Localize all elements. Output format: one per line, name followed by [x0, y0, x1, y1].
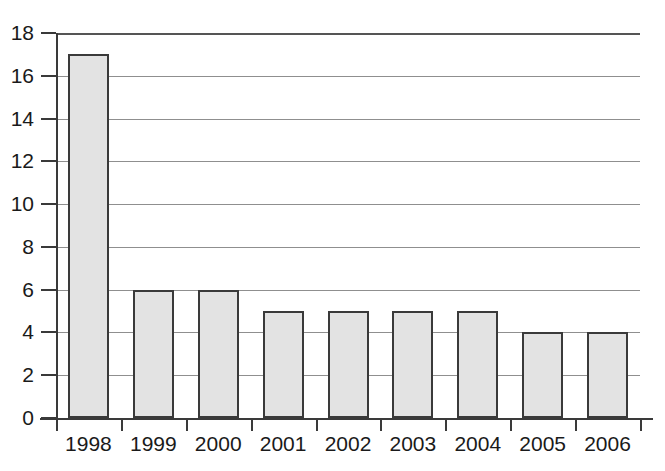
x-tick-1999 — [186, 420, 188, 431]
bar-2003 — [392, 311, 433, 418]
x-tick-2006 — [640, 420, 642, 431]
y-axis-label: 4 — [0, 321, 34, 342]
y-axis-label: 6 — [0, 279, 34, 300]
y-tick-2 — [41, 374, 56, 376]
y-axis-line — [56, 33, 58, 420]
bar-2000 — [198, 290, 239, 418]
bar-2006 — [587, 332, 628, 418]
y-tick-4 — [41, 331, 56, 333]
y-tick-6 — [41, 289, 56, 291]
x-tick-1998 — [121, 420, 123, 431]
x-tick-2001 — [316, 420, 318, 431]
x-axis-label-1998: 1998 — [56, 432, 121, 456]
bar-1998 — [68, 54, 109, 418]
y-axis-label: 2 — [0, 364, 34, 385]
y-axis-label: 0 — [0, 407, 34, 428]
x-axis-label-1999: 1999 — [121, 432, 186, 456]
gridline-8 — [56, 247, 640, 248]
bar-chart: 024681012141618 199819992000200120022003… — [0, 0, 665, 471]
x-tick-2000 — [251, 420, 253, 431]
x-tick-2005 — [575, 420, 577, 431]
y-axis-label: 18 — [0, 22, 34, 43]
gridline-16 — [56, 76, 640, 77]
bar-2002 — [328, 311, 369, 418]
y-tick-12 — [41, 160, 56, 162]
x-tick-2002 — [380, 420, 382, 431]
y-tick-8 — [41, 246, 56, 248]
y-axis-label: 8 — [0, 236, 34, 257]
x-axis-label-2000: 2000 — [186, 432, 251, 456]
y-tick-14 — [41, 118, 56, 120]
x-axis-label-2001: 2001 — [251, 432, 316, 456]
x-axis-label-2006: 2006 — [575, 432, 640, 456]
y-tick-18 — [41, 32, 56, 34]
x-tick-2004 — [510, 420, 512, 431]
y-axis-label: 10 — [0, 193, 34, 214]
gridline-12 — [56, 161, 640, 162]
bar-2005 — [522, 332, 563, 418]
bar-1999 — [133, 290, 174, 418]
x-axis-label-2003: 2003 — [380, 432, 445, 456]
x-tick-2003 — [445, 420, 447, 431]
x-axis-label-2005: 2005 — [510, 432, 575, 456]
y-axis-label: 16 — [0, 65, 34, 86]
x-axis-label-2002: 2002 — [316, 432, 381, 456]
x-tick-start — [56, 420, 58, 431]
gridline-10 — [56, 204, 640, 205]
plot-area — [56, 33, 640, 418]
y-tick-16 — [41, 75, 56, 77]
gridline-18 — [56, 33, 640, 35]
x-axis-label-2004: 2004 — [445, 432, 510, 456]
bar-2004 — [457, 311, 498, 418]
y-tick-10 — [41, 203, 56, 205]
y-axis-label: 12 — [0, 150, 34, 171]
bar-2001 — [263, 311, 304, 418]
x-axis-line — [40, 418, 653, 420]
gridline-14 — [56, 119, 640, 120]
y-axis-label: 14 — [0, 108, 34, 129]
